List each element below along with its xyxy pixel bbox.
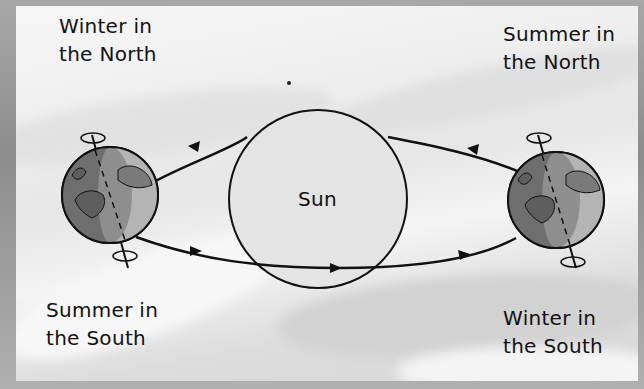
label-winter-north: Winter in the North: [59, 12, 157, 68]
label-line: Summer in: [503, 20, 615, 48]
orbit-path: [388, 137, 522, 173]
label-line: the North: [59, 40, 157, 68]
label-line: Summer in: [46, 296, 158, 324]
orbit-arrow-icon: [467, 144, 479, 155]
orbit-arrow-icon: [458, 250, 470, 260]
speck: [287, 81, 291, 85]
label-line: the South: [46, 324, 158, 352]
label-line: Winter in: [59, 12, 157, 40]
earth-right-icon: [508, 133, 604, 268]
diagram-frame: Winter in the North Summer in the North …: [0, 0, 644, 389]
orbit-arrow-icon: [188, 141, 200, 152]
label-line: the North: [503, 48, 615, 76]
label-line: Winter in: [503, 304, 603, 332]
sun-label: Sun: [298, 185, 337, 213]
label-winter-south: Winter in the South: [503, 304, 603, 360]
label-summer-south: Summer in the South: [46, 296, 158, 352]
label-summer-north: Summer in the North: [503, 20, 615, 76]
label-line: the South: [503, 332, 603, 360]
earth-left-icon: [62, 133, 158, 268]
